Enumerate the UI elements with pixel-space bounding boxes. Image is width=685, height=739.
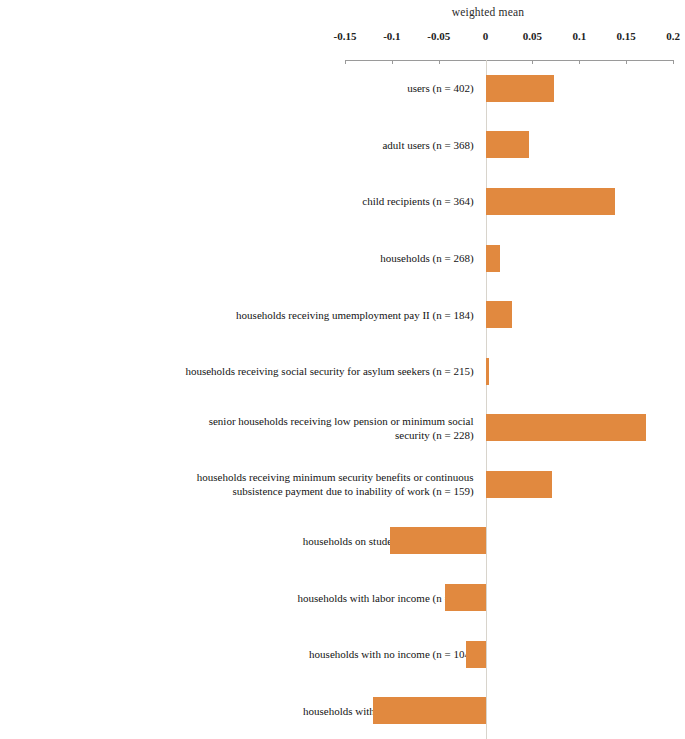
category-label: households with no income (n = 104) [309,647,473,661]
bar [373,697,485,724]
x-axis-tick-labels: -0.15-0.1-0.0500.050.10.150.2 [0,30,685,46]
bar [390,527,486,554]
chart-row: households with labor income (n = 126) [0,569,685,626]
x-tick-label: 0.1 [572,30,586,42]
category-label: senior households receiving low pension … [209,414,474,442]
axis-title: weighted mean [408,6,568,18]
chart-row: households with other income (n = 69) [0,682,685,739]
x-tick-label: -0.15 [334,30,357,42]
x-tick-label: -0.1 [383,30,400,42]
chart-row: adult users (n = 368) [0,117,685,174]
category-label: adult users (n = 368) [382,138,473,152]
chart-row: users (n = 402) [0,60,685,117]
chart-row: households (n = 268) [0,230,685,287]
category-label: households receiving social security for… [185,364,473,378]
bar [466,641,486,668]
bar [486,471,553,498]
chart-row: households on student grants (n = 115) [0,513,685,570]
chart-row: households receiving minimum security be… [0,456,685,513]
bar [486,188,615,215]
x-tick-label: 0.2 [666,30,680,42]
chart-row: households with no income (n = 104) [0,626,685,683]
bar [486,75,554,102]
category-label: households receiving umemployment pay II… [236,308,473,322]
chart-row: child recipients (n = 364) [0,173,685,230]
x-tick-label: 0 [483,30,489,42]
weighted-mean-bar-chart: weighted mean -0.15-0.1-0.0500.050.10.15… [0,0,685,739]
category-label: child recipients (n = 364) [362,194,473,208]
chart-row: senior households receiving low pension … [0,400,685,457]
bar [486,414,646,441]
category-label: households receiving minimum security be… [197,470,474,498]
x-tick-label: -0.05 [427,30,450,42]
plot-area: users (n = 402)adult users (n = 368)chil… [0,60,685,739]
category-label: users (n = 402) [407,81,473,95]
chart-row: households receiving umemployment pay II… [0,286,685,343]
bar [486,358,490,385]
x-tick-label: 0.15 [617,30,636,42]
chart-row: households receiving social security for… [0,343,685,400]
x-tick-label: 0.05 [523,30,542,42]
bar [445,584,485,611]
bar [486,245,500,272]
category-label: households (n = 268) [380,251,473,265]
bar [486,301,512,328]
bar [486,131,529,158]
